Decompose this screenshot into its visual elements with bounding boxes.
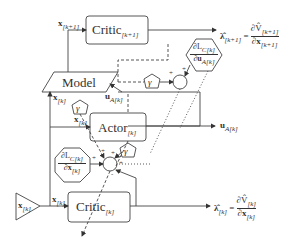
dlc-du-fraction: ∂LC[k] ∂uA[k] xyxy=(190,43,218,66)
plus-sign: + xyxy=(182,66,186,73)
gamma-gain-lower xyxy=(120,143,136,157)
plus-sign: + xyxy=(169,70,173,77)
minus-sign: - xyxy=(111,171,113,178)
lambda-next-equation: λ̂[k+1] = ∂V̂[k+1] ∂x[k+1] xyxy=(220,24,279,49)
u-model-label: uA[k] xyxy=(105,92,123,104)
lambda-curr-equation: λ̂[k] = ∂V̂[k] ∂x[k] xyxy=(214,196,256,221)
plus-sign: + xyxy=(119,160,123,167)
plus-sign: + xyxy=(101,148,105,155)
dlc-dx-fraction: ∂LC[k] ∂x[k] xyxy=(58,152,86,175)
x-k-model-label: x[k] xyxy=(53,93,66,105)
model-label: Model xyxy=(62,76,96,89)
critic-next-label: Critic[k+1] xyxy=(92,23,138,39)
summer-upper xyxy=(173,75,187,89)
plus-sign: + xyxy=(92,155,96,162)
critic-curr-label: Critic[k] xyxy=(76,200,114,216)
plus-sign: + xyxy=(111,150,115,157)
gamma-model-label: γ xyxy=(76,104,80,113)
summer-lower xyxy=(103,157,117,171)
u-output-label: uA[k] xyxy=(220,121,238,133)
gamma-lower-label: γ xyxy=(124,147,128,156)
x-k-input-label: x[k] xyxy=(18,201,31,213)
gamma-upper-label: γ xyxy=(148,78,152,87)
actor-label: Actor[k] xyxy=(98,121,136,137)
gamma-gain-upper xyxy=(144,74,160,88)
x-next-label: x[k+1] xyxy=(58,19,79,31)
x-k-critic-label: x[k] xyxy=(52,195,65,207)
x-k-actor-label: x[k] xyxy=(74,115,87,127)
gamma-gain-model xyxy=(72,100,88,114)
